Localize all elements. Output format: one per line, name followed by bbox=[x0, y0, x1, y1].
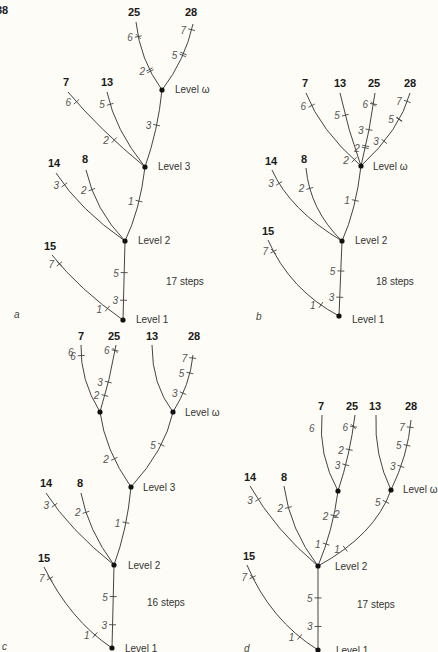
branch bbox=[162, 24, 193, 90]
level-label: Level ω bbox=[403, 484, 438, 495]
page-number: 38 bbox=[0, 4, 8, 16]
branch bbox=[339, 241, 342, 316]
character-label: 3 bbox=[146, 120, 152, 131]
character-label: 6 bbox=[301, 101, 307, 112]
panel-b: 3517153142812675132362535728Level 1Level… bbox=[256, 77, 416, 325]
taxon-label: 25 bbox=[368, 77, 380, 89]
character-label: 5 bbox=[330, 266, 336, 277]
taxon-label: 15 bbox=[44, 240, 56, 252]
cladogram-svg: 351715314281267513326255728Level 1Level … bbox=[0, 0, 438, 652]
taxon-label: 25 bbox=[128, 6, 140, 18]
taxon-label: 8 bbox=[301, 153, 307, 165]
level-label: Level 1 bbox=[352, 314, 385, 325]
taxon-label: 7 bbox=[63, 76, 69, 88]
character-label: 1 bbox=[344, 195, 350, 206]
branch bbox=[152, 345, 173, 412]
node-Lw2 bbox=[170, 409, 175, 414]
level-label: Level 2 bbox=[355, 235, 388, 246]
character-label: 1 bbox=[310, 300, 316, 311]
taxon-label: 25 bbox=[108, 330, 120, 342]
level-label: Level 1 bbox=[336, 645, 369, 652]
node-L2 bbox=[122, 238, 127, 243]
character-label: 5 bbox=[179, 368, 185, 379]
node-Lw2 bbox=[388, 487, 393, 492]
taxon-label: 7 bbox=[78, 330, 84, 342]
taxon-label: 13 bbox=[334, 77, 346, 89]
node-Lw bbox=[159, 87, 164, 92]
panel-letter: c bbox=[2, 641, 7, 652]
branch bbox=[136, 22, 162, 90]
taxon-label: 28 bbox=[188, 330, 200, 342]
taxon-label: 14 bbox=[48, 157, 61, 169]
branch bbox=[306, 168, 342, 241]
character-label: 5 bbox=[172, 50, 178, 61]
branch bbox=[318, 491, 338, 566]
panel-letter: d bbox=[244, 643, 250, 652]
character-tick bbox=[407, 427, 414, 428]
taxon-label: 28 bbox=[185, 6, 197, 18]
node-L2 bbox=[315, 563, 320, 568]
branch bbox=[81, 493, 114, 565]
character-tick bbox=[319, 302, 323, 308]
character-label: 6 bbox=[342, 422, 348, 433]
branch bbox=[376, 415, 391, 490]
node-L2 bbox=[339, 238, 344, 243]
character-tick bbox=[62, 183, 68, 187]
character-label: 2 bbox=[322, 511, 329, 522]
panel-letter: a bbox=[14, 309, 20, 320]
character-label: 1 bbox=[96, 304, 102, 315]
branch bbox=[321, 415, 338, 491]
level-label: Level 3 bbox=[143, 482, 176, 493]
branch bbox=[123, 241, 125, 320]
node-L1 bbox=[315, 647, 320, 652]
level-label: Level 3 bbox=[158, 161, 191, 172]
taxon-label: 13 bbox=[101, 76, 113, 88]
level-label: Level 1 bbox=[125, 643, 158, 652]
character-tick bbox=[343, 546, 347, 552]
character-label: 1 bbox=[128, 196, 134, 207]
character-label: 5 bbox=[375, 497, 381, 508]
character-label: 2 bbox=[353, 143, 360, 154]
character-label: 5 bbox=[113, 268, 119, 279]
taxon-label: 15 bbox=[38, 552, 50, 564]
branch bbox=[68, 92, 145, 167]
character-label: 5 bbox=[396, 440, 402, 451]
character-label: 7 bbox=[182, 353, 188, 364]
character-label: 1 bbox=[289, 632, 295, 643]
character-tick bbox=[276, 182, 282, 186]
character-label: 7 bbox=[181, 25, 187, 36]
level-label: Level ω bbox=[175, 84, 210, 95]
character-label: 3 bbox=[390, 461, 396, 472]
character-label: 1 bbox=[84, 630, 90, 641]
character-label: 2 bbox=[93, 390, 100, 401]
steps-count: 17 steps bbox=[166, 276, 204, 287]
node-L2 bbox=[111, 562, 116, 567]
character-label: 6 bbox=[65, 97, 71, 108]
taxon-label: 15 bbox=[262, 225, 274, 237]
character-label: 1 bbox=[334, 544, 340, 555]
character-label: 6 bbox=[362, 99, 368, 110]
character-label: 5 bbox=[150, 440, 156, 451]
character-label: 5 bbox=[102, 592, 108, 603]
character-label: 2 bbox=[337, 445, 344, 456]
branch bbox=[86, 170, 125, 241]
character-label: 6 bbox=[127, 32, 133, 43]
taxon-label: 14 bbox=[244, 471, 257, 483]
taxon-label: 15 bbox=[243, 550, 255, 562]
character-label: 3 bbox=[44, 500, 50, 511]
branch bbox=[284, 486, 318, 566]
taxon-label: 14 bbox=[40, 477, 53, 489]
taxon-label: 8 bbox=[77, 477, 83, 489]
taxon-label: 7 bbox=[302, 77, 308, 89]
panel-d: 3517153142812157326251335728Level 1Level… bbox=[242, 400, 438, 652]
character-label: 3 bbox=[329, 292, 335, 303]
node-Lw1 bbox=[97, 409, 102, 414]
character-label: 7 bbox=[263, 246, 269, 257]
character-label: 2 bbox=[276, 503, 283, 514]
character-label: 2 bbox=[74, 507, 81, 518]
character-label: 2 bbox=[102, 454, 109, 465]
character-label: 2 bbox=[298, 183, 305, 194]
level-label: Level 2 bbox=[138, 235, 171, 246]
character-label: 3 bbox=[97, 377, 103, 388]
branch bbox=[44, 567, 112, 648]
